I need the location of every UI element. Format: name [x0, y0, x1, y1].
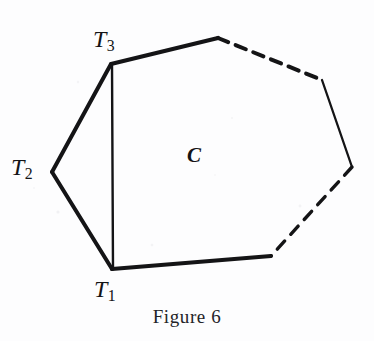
vertex-label-t1-subscript: 1 — [108, 287, 116, 304]
edge-t3-top-solid — [111, 38, 218, 64]
vertex-label-t1: T1 — [94, 277, 116, 304]
edge-top-upperright-dashed — [218, 38, 322, 80]
figure-container: T3 T2 T1 C Figure 6 — [0, 0, 374, 341]
chord-t3-t1 — [112, 64, 113, 269]
edge-lowerright-t1-solid — [112, 256, 271, 269]
edge-t2-t3-solid — [52, 64, 111, 172]
vertex-label-t3-base: T — [93, 26, 106, 52]
vertex-label-t3: T3 — [93, 27, 115, 54]
vertex-label-t1-base: T — [94, 276, 107, 302]
edge-t1-t2-solid — [52, 172, 112, 269]
vertex-label-t3-subscript: 3 — [107, 37, 115, 54]
vertex-label-t2-base: T — [11, 154, 24, 180]
figure-caption: Figure 6 — [0, 306, 374, 328]
vertex-label-t2-subscript: 2 — [25, 165, 33, 182]
curve-c-outline — [52, 38, 352, 269]
convex-curve-diagram — [0, 0, 374, 341]
edge-upperright-right-solid — [322, 80, 352, 167]
paper-grain — [33, 81, 301, 247]
region-label-c: C — [187, 145, 201, 166]
edge-right-lowerright-dashed — [271, 167, 352, 256]
vertex-label-t2: T2 — [11, 155, 33, 182]
